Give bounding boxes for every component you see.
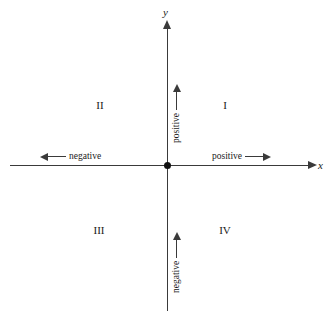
y-positive-direction-label: positive: [172, 113, 182, 143]
origin-point-marker: [164, 162, 171, 169]
y-negative-direction-group: negative: [172, 232, 182, 293]
down-arrow-icon: [172, 232, 181, 258]
y-negative-direction-label: negative: [172, 261, 182, 293]
x-axis-line: [10, 165, 310, 166]
right-arrow-icon: [245, 152, 271, 161]
y-axis-label: y: [163, 7, 168, 18]
coordinate-plane-diagram: x y I II III IV negative positive positi…: [0, 0, 330, 322]
quadrant-label-iii: III: [79, 225, 119, 236]
up-arrow-icon: [172, 84, 181, 110]
x-axis-label: x: [318, 160, 323, 171]
quadrant-label-ii: II: [80, 100, 120, 111]
x-positive-direction-label: positive: [212, 152, 242, 162]
y-axis-line: [167, 27, 168, 311]
quadrant-label-i: I: [205, 100, 245, 111]
y-axis-arrow-icon: [163, 20, 171, 29]
y-positive-direction-group: positive: [172, 84, 182, 143]
x-axis-arrow-icon: [308, 161, 317, 169]
x-negative-direction-label: negative: [69, 152, 101, 162]
left-arrow-icon: [40, 152, 66, 161]
x-positive-direction-group: positive: [212, 152, 271, 162]
quadrant-label-iv: IV: [205, 225, 245, 236]
x-negative-direction-group: negative: [40, 152, 101, 162]
